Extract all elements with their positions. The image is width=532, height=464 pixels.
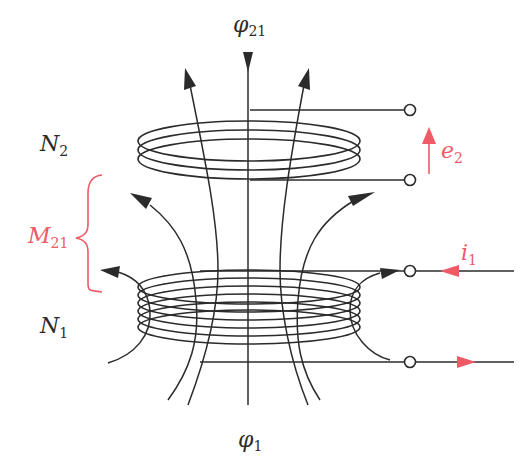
arrow-head-icon: [130, 193, 152, 209]
label-phi1: φ1: [238, 427, 262, 454]
terminal-secondary-bottom: [405, 175, 416, 186]
arrow-head-icon: [380, 268, 400, 279]
label-phi21: φ21: [233, 12, 266, 39]
labels: φ21 φ1 N2 N1 M21 e2 i1: [27, 12, 477, 454]
output-arrow-icon: [457, 356, 476, 368]
m21-brace: [76, 175, 102, 292]
label-M21: M21: [27, 223, 68, 251]
terminal-primary-top: [405, 266, 416, 277]
i1-arrow-icon: [440, 265, 459, 277]
flux-line-outer-left: [150, 205, 197, 400]
arrow-head-icon: [184, 68, 196, 90]
label-N1: N1: [39, 313, 68, 341]
terminal-primary-bottom: [405, 357, 416, 368]
arrow-head-icon: [243, 52, 253, 72]
primary-coil: [138, 266, 514, 368]
arrow-head-icon: [100, 266, 120, 278]
label-i1: i1: [461, 240, 477, 268]
flux-lines: [100, 52, 400, 405]
flux-line-leakage-left: [108, 272, 150, 363]
terminal-secondary-top: [405, 105, 416, 116]
e2-arrow-icon: [422, 127, 436, 144]
flux-line-leakage-right: [350, 273, 390, 360]
secondary-coil: [138, 105, 416, 186]
label-e2: e2: [441, 138, 463, 166]
accent-annotations: [76, 127, 476, 368]
mutual-inductance-diagram: φ21 φ1 N2 N1 M21 e2 i1: [0, 0, 532, 464]
arrow-head-icon: [348, 192, 375, 206]
label-N2: N2: [39, 131, 68, 159]
arrow-head-icon: [298, 68, 310, 90]
